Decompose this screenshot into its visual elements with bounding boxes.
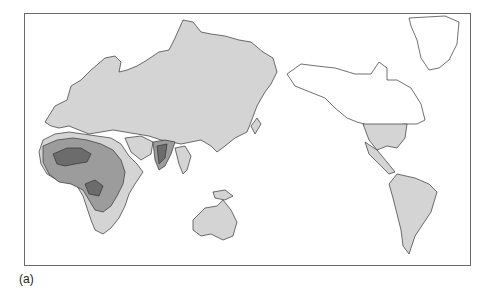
region-eurasia bbox=[45, 20, 277, 152]
region-se-asia bbox=[175, 146, 191, 174]
region-south-america bbox=[389, 174, 437, 254]
map-frame bbox=[24, 13, 471, 266]
region-canada-alaska bbox=[287, 62, 425, 126]
world-map bbox=[25, 14, 472, 267]
region-japan bbox=[251, 118, 261, 134]
region-greenland bbox=[409, 16, 459, 70]
region-new-guinea bbox=[213, 190, 233, 200]
figure-caption: (a) bbox=[19, 272, 34, 286]
region-australia bbox=[193, 200, 237, 240]
